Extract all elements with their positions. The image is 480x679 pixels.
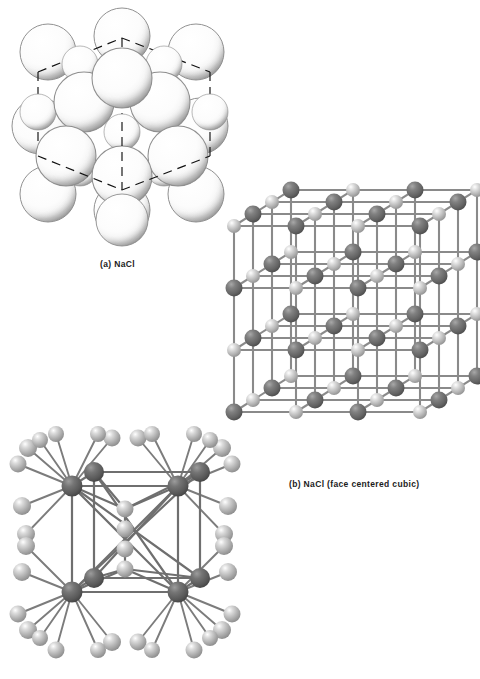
space-filling-svg <box>4 8 240 248</box>
lattice-group <box>226 182 480 421</box>
panel-c-coordination-model <box>2 428 250 676</box>
sphere-layer-bottom <box>96 194 148 246</box>
coordination-model-svg <box>2 428 250 676</box>
fcc-lattice-svg <box>228 200 480 462</box>
panel-a-space-filling-model <box>4 8 240 248</box>
panel-b-fcc-lattice <box>228 200 480 462</box>
caption-panel-a: (a) NaCl <box>100 259 135 269</box>
caption-panel-b: (b) NaCl (face centered cubic) <box>289 479 419 489</box>
